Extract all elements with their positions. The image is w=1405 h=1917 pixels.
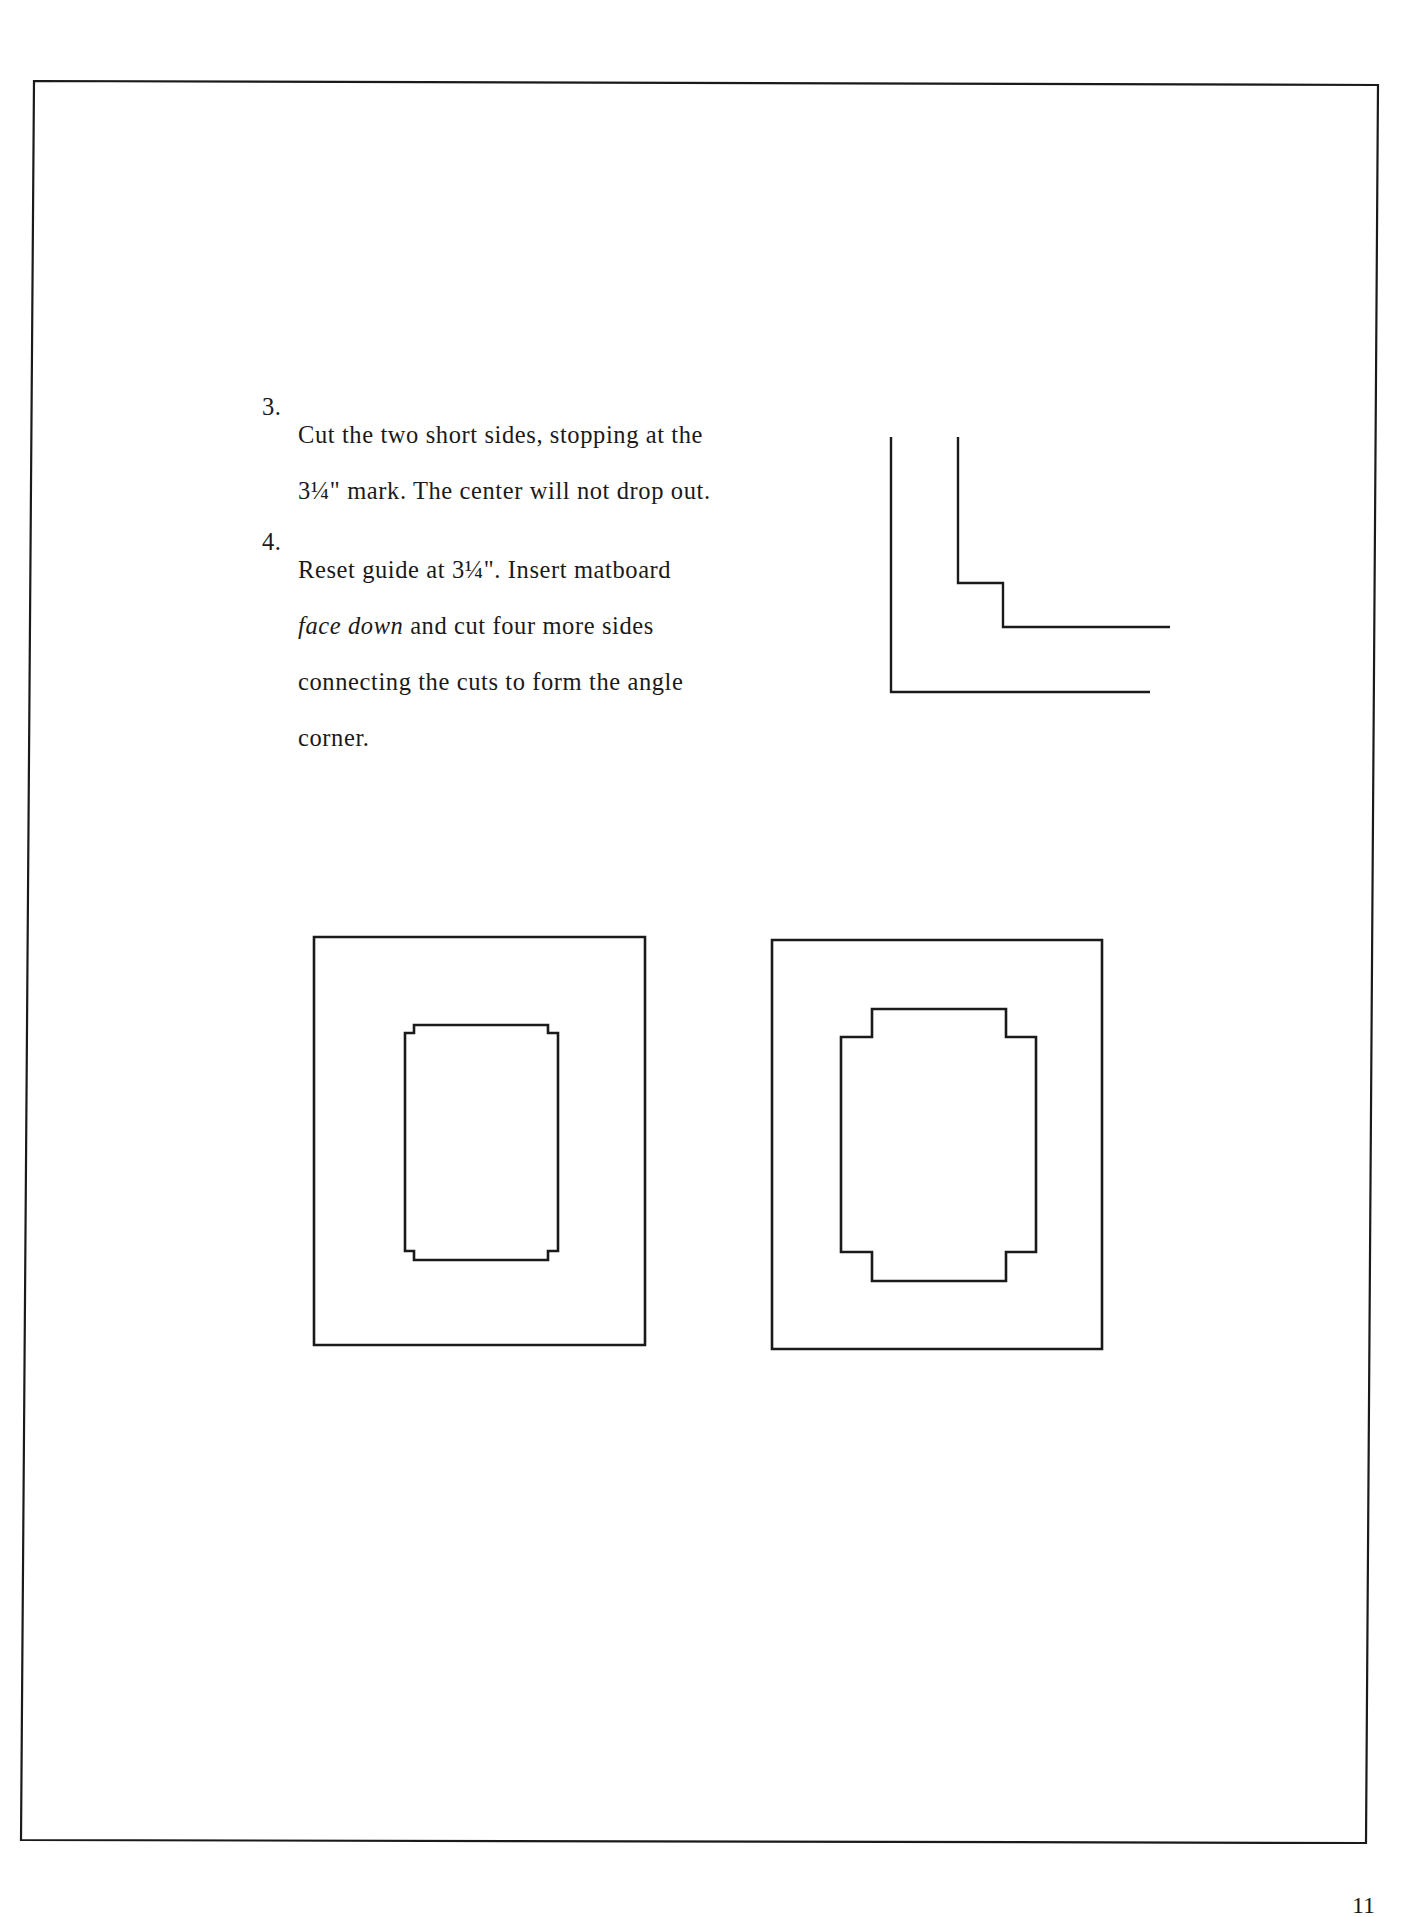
step-text-line: corner. <box>298 724 684 752</box>
stepped-inner-corner-line <box>958 437 1170 627</box>
mat-small-notch-diagram <box>314 937 645 1345</box>
page-frame <box>21 81 1378 1843</box>
step-text-line: face down and cut four more sides <box>298 612 684 640</box>
mat-large-notch-diagram <box>772 940 1102 1349</box>
step-text-line: connecting the cuts to form the angle <box>298 668 684 696</box>
mat-opening-small-notch <box>405 1025 558 1260</box>
corner-detail-diagram <box>891 437 1170 692</box>
mat-opening-large-notch <box>841 1009 1036 1281</box>
step-text-fragment: and cut four more sides <box>403 612 654 639</box>
step-number: 3. <box>262 393 298 421</box>
instruction-step-4: 4. Reset guide at 3¼". Insert matboard f… <box>262 528 684 780</box>
outer-corner-line <box>891 437 1150 692</box>
step-text-line: 3¼" mark. The center will not drop out. <box>298 477 711 505</box>
page-number: 11 <box>1352 1892 1375 1917</box>
step-number: 4. <box>262 528 298 556</box>
instruction-step-3: 3. Cut the two short sides, stopping at … <box>262 393 711 533</box>
step-text-line: Cut the two short sides, stopping at the <box>298 421 711 449</box>
emphasis-face-down: face down <box>298 612 403 639</box>
mat-outer-edge <box>772 940 1102 1349</box>
step-text-line: Reset guide at 3¼". Insert matboard <box>298 556 684 584</box>
mat-outer-edge <box>314 937 645 1345</box>
